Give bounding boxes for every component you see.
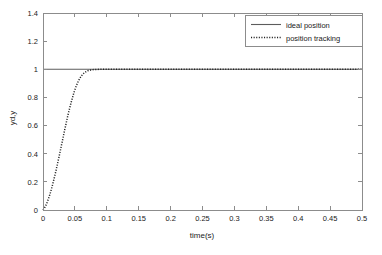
- legend-label-position-tracking: position tracking: [286, 34, 340, 43]
- y-tick-label: 0: [34, 206, 38, 215]
- x-tick-label: 0.15: [131, 214, 146, 223]
- y-tick-label: 1: [34, 65, 38, 74]
- x-tick-label: 0.4: [293, 214, 303, 223]
- x-tick-label: 0.35: [259, 214, 274, 223]
- y-tick-label: 1.2: [28, 37, 38, 46]
- y-tick-label: 0.4: [28, 150, 38, 159]
- line-chart: 00.050.10.150.20.250.30.350.40.450.5 00.…: [0, 0, 382, 255]
- x-tick-label: 0.5: [357, 214, 367, 223]
- legend[interactable]: ideal position position tracking: [245, 15, 362, 46]
- y-tick-label: 0.2: [28, 178, 38, 187]
- y-tick-label: 1.4: [28, 9, 38, 18]
- y-axis-title: yd,y: [8, 111, 17, 126]
- x-tick-label: 0.05: [68, 214, 83, 223]
- x-tick-label: 0.2: [165, 214, 175, 223]
- figure-canvas: 00.050.10.150.20.250.30.350.40.450.5 00.…: [0, 0, 382, 255]
- x-tick-label: 0.1: [102, 214, 112, 223]
- legend-label-ideal-position: ideal position: [286, 21, 330, 30]
- x-tick-label: 0: [41, 214, 45, 223]
- x-tick-label: 0.25: [195, 214, 210, 223]
- x-tick-label: 0.3: [229, 214, 239, 223]
- x-axis-title: time(s): [190, 231, 215, 240]
- y-tick-label: 0.8: [28, 93, 38, 102]
- x-tick-label: 0.45: [323, 214, 338, 223]
- y-tick-label: 0.6: [28, 121, 38, 130]
